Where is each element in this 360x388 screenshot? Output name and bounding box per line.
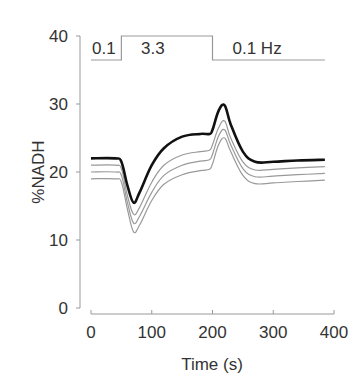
stimulus-label: 3.3 (141, 39, 165, 58)
y-tick-label: 20 (49, 163, 68, 182)
stimulus-label: 0.1 Hz (233, 39, 282, 58)
y-axis-ticks: 010203040 (49, 27, 80, 318)
y-tick-label: 0 (59, 299, 68, 318)
y-axis-title: %NADH (29, 140, 48, 203)
stimulus-label: 0.1 (92, 39, 116, 58)
x-tick-label: 0 (86, 323, 95, 342)
stimulus-line (91, 36, 325, 60)
nadh-traces (91, 105, 325, 233)
x-axis-ticks: 0100200300400 (86, 310, 348, 342)
stimulus-protocol-trace: 0.13.30.1 Hz (91, 36, 325, 60)
nadh-line-chart: 010203040 0100200300400 Time (s) %NADH 0… (0, 0, 360, 388)
x-tick-label: 400 (320, 323, 348, 342)
y-tick-label: 30 (49, 95, 68, 114)
x-tick-label: 300 (259, 323, 287, 342)
y-tick-label: 40 (49, 27, 68, 46)
x-tick-label: 200 (198, 323, 226, 342)
y-tick-label: 10 (49, 231, 68, 250)
x-axis-title: Time (s) (181, 355, 243, 374)
x-tick-label: 100 (138, 323, 166, 342)
